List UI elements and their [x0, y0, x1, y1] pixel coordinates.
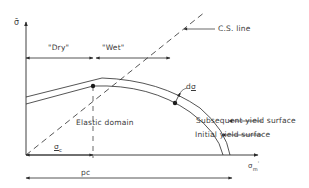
cs-line-label: C.S. line — [218, 24, 251, 33]
initial-yield-surface-label: Initial yield surface — [195, 130, 270, 139]
critical-state-line — [26, 12, 205, 155]
dry-label: "Dry" — [48, 43, 69, 52]
yield-surface-diagram — [0, 0, 309, 188]
pc-label: pc — [81, 168, 90, 177]
subsequent-yield-surface-label: Subsequent yield surface — [196, 116, 296, 125]
wet-label: "Wet" — [102, 43, 124, 52]
peak-point — [91, 84, 95, 88]
y-axis-label: σ̄ — [14, 18, 19, 27]
stress-increment-label: dσ — [186, 82, 196, 91]
x-axis-label: σm' — [248, 160, 259, 172]
elastic-domain-label: Elastic domain — [76, 118, 134, 127]
sigma-c-label: σc — [54, 142, 62, 153]
